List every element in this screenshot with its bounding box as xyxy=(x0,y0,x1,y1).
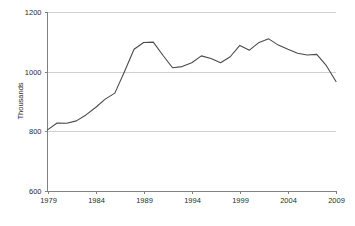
x-tick-label: 1999 xyxy=(232,196,249,205)
data-series-group xyxy=(48,39,337,130)
x-tick-label: 1979 xyxy=(40,196,57,205)
x-tick-label: 1989 xyxy=(136,196,153,205)
y-tick-label: 1000 xyxy=(25,68,42,77)
y-axis-title-group: Thousands xyxy=(16,82,25,119)
y-tick-label: 1200 xyxy=(25,8,42,17)
y-tick-label: 600 xyxy=(29,187,42,196)
y-axis-title: Thousands xyxy=(16,82,25,119)
y-axis-ticks: 60080010001200 xyxy=(25,8,48,196)
x-tick-label: 2009 xyxy=(328,196,345,205)
gridlines xyxy=(48,13,337,132)
x-axis-ticks: 1979198419891994199920042009 xyxy=(40,191,345,205)
chart-canvas: 60080010001200 1979198419891994199920042… xyxy=(0,0,355,226)
y-tick-label: 800 xyxy=(29,127,42,136)
x-tick-label: 1984 xyxy=(88,196,105,205)
x-tick-label: 2004 xyxy=(280,196,297,205)
axes xyxy=(48,12,337,192)
x-tick-label: 1994 xyxy=(184,196,201,205)
line-chart: 60080010001200 1979198419891994199920042… xyxy=(0,0,355,226)
series-line xyxy=(48,39,337,130)
